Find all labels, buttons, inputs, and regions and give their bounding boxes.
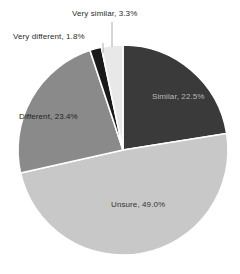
- slice-label-similar: Similar, 22.5%: [152, 92, 205, 101]
- slice-callout-label-very-similar: Very similar, 3.3%: [72, 9, 137, 18]
- pie-chart-canvas: Similar, 22.5%Unsure, 49.0%Different, 23…: [0, 0, 240, 274]
- slice-callout-label-very-different: Very different, 1.8%: [13, 32, 85, 41]
- slice-label-unsure: Unsure, 49.0%: [111, 200, 165, 209]
- pie-chart-figure: Similar, 22.5%Unsure, 49.0%Different, 23…: [0, 0, 240, 274]
- slice-label-different: Different, 23.4%: [19, 112, 78, 121]
- pie-slice-group: [18, 45, 228, 255]
